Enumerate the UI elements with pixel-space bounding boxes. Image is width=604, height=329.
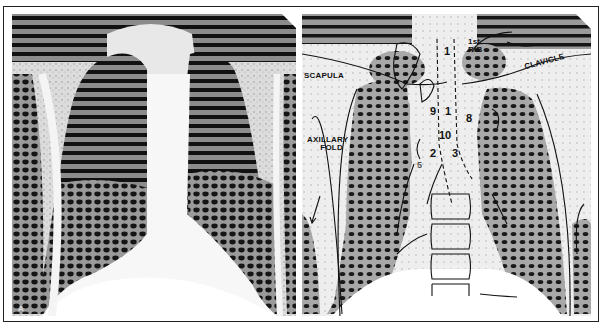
radiograph-image	[12, 14, 296, 316]
radiograph-panel: A	[12, 14, 296, 316]
annotated-panel: 1stRIB CLAVICLE SCAPULA AXILLARYFOLD 1 9…	[302, 14, 591, 316]
label-axillary-fold: AXILLARYFOLD	[307, 136, 348, 152]
label-first-rib: 1stRIB	[468, 38, 482, 54]
panel-marker-a: A	[18, 304, 24, 313]
label-scapula: SCAPULA	[304, 72, 344, 80]
label-2: 2	[430, 148, 436, 159]
label-10: 10	[439, 130, 451, 141]
label-5: 5	[417, 161, 422, 170]
label-1-mid: 1	[445, 106, 451, 117]
label-8: 8	[466, 113, 472, 124]
label-1-top: 1	[444, 46, 450, 57]
label-3: 3	[452, 148, 458, 159]
label-9: 9	[430, 106, 436, 117]
